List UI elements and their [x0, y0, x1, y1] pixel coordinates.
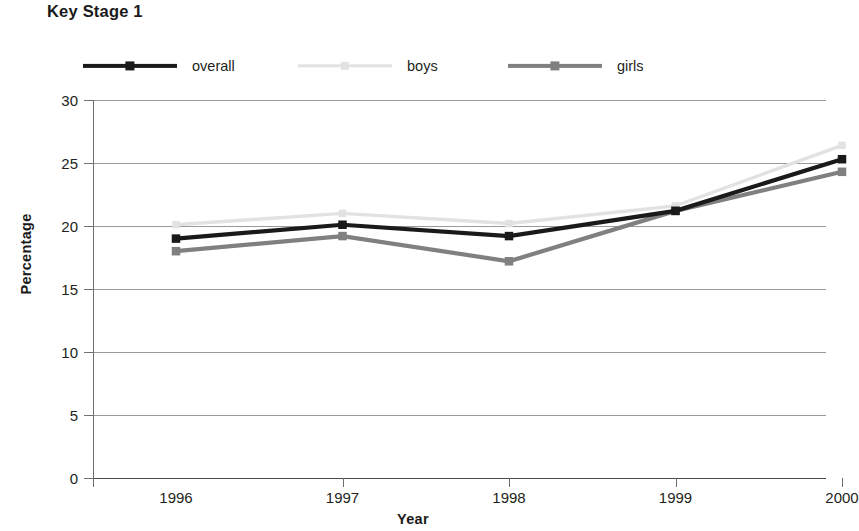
data-point-girls-1996	[172, 247, 181, 256]
series-line-boys	[176, 145, 842, 224]
data-point-overall-1997	[338, 220, 347, 229]
data-point-overall-1998	[505, 232, 514, 241]
series-overall	[172, 155, 847, 243]
data-point-overall-2000	[838, 155, 847, 164]
data-point-boys-1998	[505, 220, 513, 228]
x-tick-label-2000: 2000	[825, 489, 858, 506]
data-point-girls-1997	[338, 232, 347, 241]
y-axis-title: Percentage	[18, 204, 34, 304]
data-point-overall-1996	[172, 234, 181, 243]
series-boys	[172, 142, 846, 229]
x-axis-title: Year	[0, 511, 826, 527]
x-tick-mark-2000	[842, 478, 843, 487]
data-point-boys-1996	[172, 221, 180, 229]
data-point-girls-1998	[505, 257, 514, 266]
data-point-boys-2000	[838, 142, 846, 150]
data-point-boys-1997	[339, 210, 347, 218]
data-point-girls-2000	[838, 168, 847, 177]
data-point-overall-1999	[671, 207, 680, 216]
